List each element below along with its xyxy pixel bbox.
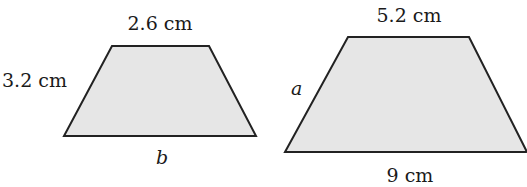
- trapezoid-left-shape: [64, 46, 256, 136]
- right-side-label: a: [291, 77, 302, 99]
- trapezoid-diagram: 2.6 cm 3.2 cm b 5.2 cm a 9 cm: [0, 0, 527, 187]
- left-side-label: 3.2 cm: [2, 69, 67, 91]
- left-top-label: 2.6 cm: [128, 12, 193, 34]
- left-bottom-label: b: [156, 146, 168, 168]
- right-top-label: 5.2 cm: [377, 4, 442, 26]
- trapezoid-right-shape: [285, 37, 527, 152]
- right-bottom-label: 9 cm: [387, 164, 434, 186]
